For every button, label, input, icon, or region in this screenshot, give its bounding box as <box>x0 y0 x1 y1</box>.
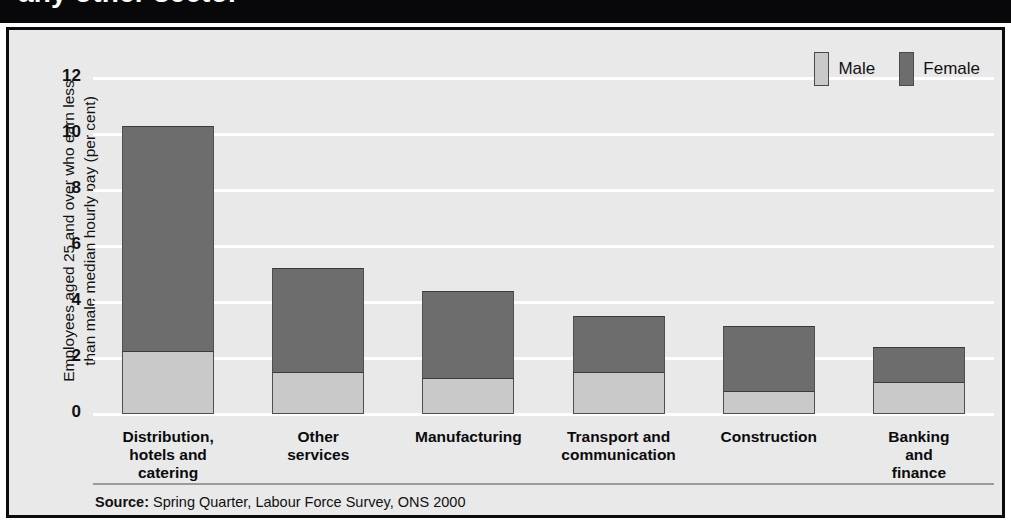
bar-stack[interactable] <box>873 347 965 414</box>
y-axis-tick-label: 0 <box>47 402 81 422</box>
chart-frame: Employees aged 25 and over who earn less… <box>6 27 1005 518</box>
bar-segment-female[interactable] <box>122 126 214 353</box>
bar-segment-male[interactable] <box>723 392 815 414</box>
bar-segment-female[interactable] <box>873 347 965 383</box>
bar-stack[interactable] <box>723 326 815 414</box>
y-axis-tick-label: 10 <box>47 122 81 142</box>
title-banner: any other sector <box>0 0 1011 23</box>
source-text: Spring Quarter, Labour Force Survey, ONS… <box>149 494 465 510</box>
bar-stack[interactable] <box>573 316 665 414</box>
bar-segment-male[interactable] <box>422 379 514 414</box>
y-axis-tick-label: 6 <box>47 234 81 254</box>
bar-segment-female[interactable] <box>573 316 665 373</box>
y-axis-tick-label: 8 <box>47 178 81 198</box>
chart-title: any other sector <box>18 0 239 9</box>
x-axis-category-label: Transport and communication <box>544 428 694 464</box>
source-label: Source: <box>95 494 149 510</box>
bar-stack[interactable] <box>122 126 214 414</box>
bar-segment-female[interactable] <box>422 291 514 379</box>
bar-stack[interactable] <box>422 291 514 414</box>
x-axis-category-label: Construction <box>694 428 844 446</box>
y-axis-tick-label: 12 <box>47 66 81 86</box>
x-axis-category-label: Distribution, hotels and catering <box>93 428 243 482</box>
bar-segment-male[interactable] <box>122 352 214 414</box>
plot-area: Distribution, hotels and cateringOther s… <box>93 30 994 515</box>
x-axis-category-label: Other services <box>243 428 393 464</box>
bar-stack[interactable] <box>272 268 364 414</box>
chart-figure: any other sector Employees aged 25 and o… <box>0 0 1011 523</box>
y-axis-tick-label: 4 <box>47 290 81 310</box>
bar-segment-male[interactable] <box>873 383 965 414</box>
x-axis-category-label: Manufacturing <box>393 428 543 446</box>
source-note: Source: Spring Quarter, Labour Force Sur… <box>95 494 465 510</box>
bar-segment-male[interactable] <box>573 373 665 414</box>
x-axis-category-label: Banking and finance <box>844 428 994 482</box>
y-axis-tick-label: 2 <box>47 346 81 366</box>
bar-segment-female[interactable] <box>723 326 815 392</box>
bar-segment-male[interactable] <box>272 373 364 414</box>
bar-segment-female[interactable] <box>272 268 364 373</box>
source-divider <box>93 483 994 485</box>
